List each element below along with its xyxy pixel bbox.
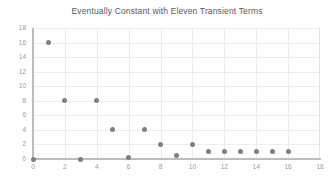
y-axis-tick-label: 0 <box>6 155 26 162</box>
x-axis-tick-label: 10 <box>182 163 202 170</box>
x-axis-tick-label: 14 <box>246 163 266 170</box>
y-axis-tick-label: 18 <box>6 24 26 31</box>
y-axis-tick-label: 12 <box>6 68 26 75</box>
y-axis-tick-label: 4 <box>6 126 26 133</box>
y-axis-tick-label: 16 <box>6 39 26 46</box>
x-axis-tick-label: 0 <box>23 163 43 170</box>
gridline-vertical <box>129 29 130 158</box>
gridline-horizontal <box>34 43 319 44</box>
x-axis-tick-label: 18 <box>310 163 330 170</box>
x-axis-tick-label: 2 <box>55 163 75 170</box>
y-axis-tick-label: 6 <box>6 111 26 118</box>
data-point <box>78 157 83 162</box>
gridline-horizontal <box>34 144 319 145</box>
x-axis-tick-label: 8 <box>151 163 171 170</box>
data-point <box>286 149 291 154</box>
gridline-horizontal <box>34 86 319 87</box>
gridline-horizontal <box>34 115 319 116</box>
y-axis-tick-label: 14 <box>6 53 26 60</box>
y-axis-tick-label: 2 <box>6 140 26 147</box>
gridline-horizontal <box>34 130 319 131</box>
y-axis-spine <box>32 28 34 160</box>
y-axis-tick-label: 8 <box>6 97 26 104</box>
gridline-vertical <box>288 29 289 158</box>
y-axis-tick-label: 10 <box>6 82 26 89</box>
data-point <box>31 157 36 162</box>
scatter-chart-figure: Eventually Constant with Eleven Transien… <box>0 0 334 183</box>
x-axis-tick-label: 6 <box>119 163 139 170</box>
gridline-vertical <box>97 29 98 158</box>
data-point <box>254 149 259 154</box>
x-axis-tick-label: 16 <box>278 163 298 170</box>
gridline-vertical <box>65 29 66 158</box>
plot-area <box>33 28 320 159</box>
gridline-vertical <box>161 29 162 158</box>
gridline-horizontal <box>34 57 319 58</box>
data-point <box>238 149 243 154</box>
data-point <box>270 149 275 154</box>
chart-title: Eventually Constant with Eleven Transien… <box>0 6 334 16</box>
data-point <box>190 142 195 147</box>
data-point <box>158 142 163 147</box>
data-point <box>174 153 179 158</box>
gridline-vertical <box>224 29 225 158</box>
gridline-horizontal <box>34 28 319 29</box>
gridline-vertical <box>256 29 257 158</box>
gridline-vertical <box>192 29 193 158</box>
gridline-horizontal <box>34 72 319 73</box>
x-axis-tick-label: 4 <box>87 163 107 170</box>
x-axis-spine <box>32 158 321 160</box>
gridline-horizontal <box>34 101 319 102</box>
x-axis-tick-label: 12 <box>214 163 234 170</box>
